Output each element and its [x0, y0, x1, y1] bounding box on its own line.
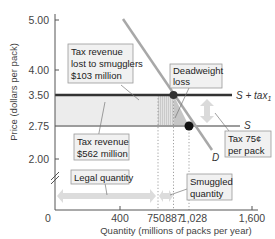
x-tick-400: 400: [111, 212, 129, 224]
demand-label: D: [212, 152, 219, 163]
svg-text:Tax revenue: Tax revenue: [71, 46, 123, 57]
svg-text:Tax revenue: Tax revenue: [77, 136, 129, 147]
svg-text:quantity: quantity: [190, 188, 224, 199]
supply-tax-label: S + tax1: [236, 90, 271, 102]
x-axis-label: Quantity (millions of packs per year): [100, 225, 252, 236]
y-axis-label: Price (dollars per pack): [8, 43, 19, 141]
x-tick-1028: 1,028: [181, 212, 207, 224]
x-tick-1600: 1,600: [239, 212, 265, 224]
svg-text:lost to smugglers: lost to smugglers: [71, 58, 143, 69]
supply-label: S: [244, 120, 251, 131]
svg-text:per pack: per pack: [228, 145, 265, 156]
callout-deadweight-loss: Deadweight loss: [170, 64, 224, 88]
point-without-tax: [185, 122, 194, 131]
lost-revenue-area: [158, 95, 174, 126]
svg-text:loss: loss: [173, 76, 190, 87]
x-tick-750: 750: [147, 212, 165, 224]
svg-text:Tax 75¢: Tax 75¢: [228, 133, 261, 144]
chart: 5.00 4.00 3.50 2.75 2.00 0 400 750 887 1…: [0, 0, 275, 239]
callout-smuggled-quantity: Smuggled quantity: [187, 174, 233, 200]
point-with-tax: [170, 91, 178, 99]
svg-text:Legal quantity: Legal quantity: [74, 172, 133, 183]
smuggled-quantity-arrow-icon: [159, 190, 173, 202]
callout-tax-revenue: Tax revenue $562 million: [74, 134, 129, 160]
y-tick-5: 5.00: [29, 14, 50, 26]
callout-legal-quantity: Legal quantity: [71, 170, 133, 184]
tax-revenue-area: [55, 95, 158, 126]
svg-text:$103 million: $103 million: [71, 70, 122, 81]
callout-tax-amount: Tax 75¢ per pack: [225, 131, 271, 157]
x-tick-0: 0: [45, 212, 51, 224]
svg-text:$562 million: $562 million: [77, 148, 128, 159]
y-tick-3-5: 3.50: [29, 89, 50, 101]
svg-text:Deadweight: Deadweight: [173, 65, 224, 76]
y-tick-2: 2.00: [29, 153, 50, 165]
y-tick-4: 4.00: [29, 64, 50, 76]
tax-arrow-icon: [200, 99, 214, 123]
svg-text:Smuggled: Smuggled: [190, 176, 233, 187]
callout-lost-revenue: Tax revenue lost to smugglers $103 milli…: [68, 44, 143, 83]
y-tick-2-75: 2.75: [29, 120, 50, 132]
